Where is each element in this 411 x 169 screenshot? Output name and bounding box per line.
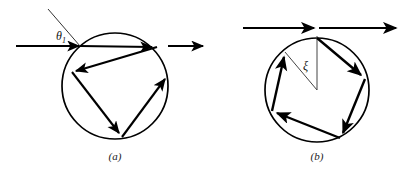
angle-label-xi: ξ [303,59,309,73]
ray-optics-figure: θ1 (a) ξ (b) [0,0,411,169]
internal-segment-a-1 [80,46,152,47]
caption-panel-a: (a) [109,150,122,163]
caption-panel-b: (b) [311,150,324,163]
